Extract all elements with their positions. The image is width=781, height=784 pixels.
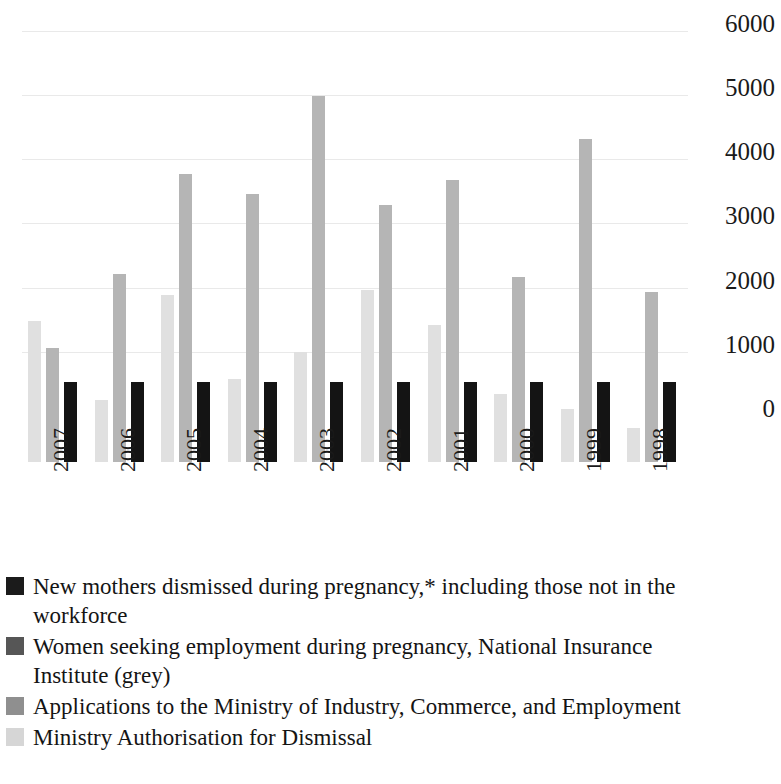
- y-axis: 6000500040003000200010000: [692, 0, 781, 470]
- bar: [179, 174, 192, 462]
- x-axis-tick-label: 2003: [316, 428, 338, 472]
- bar: [561, 409, 574, 462]
- y-axis-tick-label: 0: [763, 396, 776, 421]
- legend-swatch-icon: [6, 697, 24, 715]
- bars-layer: [22, 8, 688, 470]
- x-axis-tick-label: 2007: [50, 428, 72, 472]
- x-axis-tick-label: 2005: [183, 428, 205, 472]
- bar-group: [428, 62, 477, 462]
- bar: [446, 180, 459, 462]
- bar-group: [294, 62, 343, 462]
- legend-label: New mothers dismissed during pregnancy,*…: [33, 572, 723, 630]
- y-axis-tick-label: 3000: [725, 203, 775, 228]
- bar-group: [561, 62, 610, 462]
- x-axis: 2007200620052004200320022001200019991998: [22, 470, 688, 570]
- legend-item: Women seeking employment during pregnanc…: [0, 632, 781, 690]
- x-axis-tick-label: 2000: [516, 428, 538, 472]
- legend-item: New mothers dismissed during pregnancy,*…: [0, 572, 781, 630]
- bar: [95, 400, 108, 462]
- legend-label: Ministry Authorisation for Dismissal: [33, 723, 372, 752]
- chart-legend: New mothers dismissed during pregnancy,*…: [0, 572, 781, 754]
- x-axis-tick: 1998: [625, 470, 655, 566]
- bar-group: [627, 62, 676, 462]
- x-axis-tick: 1999: [559, 470, 589, 566]
- x-axis-tick-label: 2006: [117, 428, 139, 472]
- bar: [246, 194, 259, 462]
- bar: [361, 290, 374, 462]
- x-axis-tick: 2006: [93, 470, 123, 566]
- legend-label: Applications to the Ministry of Industry…: [33, 692, 681, 721]
- x-axis-tick-label: 2002: [383, 428, 405, 472]
- x-axis-tick-label: 1998: [649, 428, 671, 472]
- bar-group: [228, 62, 277, 462]
- bar: [379, 205, 392, 462]
- bar: [161, 295, 174, 462]
- legend-swatch-icon: [6, 577, 24, 595]
- x-axis-tick: 2004: [226, 470, 256, 566]
- x-axis-tick: 2000: [492, 470, 522, 566]
- x-axis-tick-label: 1999: [583, 428, 605, 472]
- plot-area: [22, 8, 688, 470]
- x-axis-tick-label: 2001: [450, 428, 472, 472]
- bar: [579, 139, 592, 462]
- legend-item: Applications to the Ministry of Industry…: [0, 692, 781, 721]
- y-axis-tick-label: 5000: [725, 75, 775, 100]
- legend-label: Women seeking employment during pregnanc…: [33, 632, 723, 690]
- y-axis-tick-label: 2000: [725, 268, 775, 293]
- bar-group: [361, 62, 410, 462]
- bar: [312, 96, 325, 462]
- bar: [228, 379, 241, 462]
- bar: [28, 321, 41, 462]
- bar: [294, 352, 307, 462]
- bar: [428, 325, 441, 462]
- legend-swatch-icon: [6, 637, 24, 655]
- x-axis-tick-label: 2004: [250, 428, 272, 472]
- legend-item: Ministry Authorisation for Dismissal: [0, 723, 781, 752]
- y-axis-tick-label: 6000: [725, 11, 775, 36]
- y-axis-tick-label: 1000: [725, 332, 775, 357]
- x-axis-tick: 2001: [426, 470, 456, 566]
- x-axis-tick: 2007: [26, 470, 56, 566]
- x-axis-tick: 2002: [359, 470, 389, 566]
- bar-group: [494, 62, 543, 462]
- chart-page: 6000500040003000200010000 20072006200520…: [0, 0, 781, 784]
- bar-group: [95, 62, 144, 462]
- bar: [627, 428, 640, 462]
- bar-chart: 6000500040003000200010000 20072006200520…: [0, 0, 781, 478]
- bar-group: [28, 62, 77, 462]
- x-axis-tick: 2003: [292, 470, 322, 566]
- legend-swatch-icon: [6, 728, 24, 746]
- y-axis-tick-label: 4000: [725, 139, 775, 164]
- x-axis-tick: 2005: [159, 470, 189, 566]
- bar-group: [161, 62, 210, 462]
- bar: [494, 394, 507, 462]
